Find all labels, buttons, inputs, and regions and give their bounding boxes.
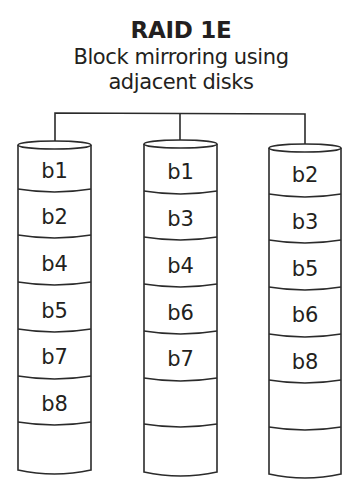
disk-3: b2 b3 b5 b6 b8 bbox=[269, 144, 341, 478]
block-label: b3 bbox=[292, 210, 319, 234]
raid-diagram: b1 b2 b4 b5 b7 b8 b1 b3 b4 b6 b7 b2 b bbox=[0, 0, 362, 495]
block-label: b7 bbox=[41, 345, 68, 369]
disk-cylinder-top bbox=[269, 144, 341, 152]
block-label: b1 bbox=[41, 159, 68, 183]
block-label: b4 bbox=[167, 254, 194, 278]
disk-2: b1 b3 b4 b6 b7 bbox=[144, 140, 217, 476]
block-label: b2 bbox=[292, 163, 319, 187]
disk-1: b1 b2 b4 b5 b7 b8 bbox=[18, 141, 91, 474]
block-label: b8 bbox=[292, 350, 319, 374]
block-label: b8 bbox=[41, 392, 68, 416]
block-label: b2 bbox=[41, 205, 68, 229]
block-label: b6 bbox=[292, 303, 319, 327]
block-label: b6 bbox=[167, 301, 194, 325]
block-label: b4 bbox=[41, 252, 68, 276]
block-label: b1 bbox=[167, 160, 194, 184]
disk-cylinder-top bbox=[18, 141, 91, 149]
block-label: b5 bbox=[41, 299, 68, 323]
disk-cylinder-top bbox=[144, 140, 217, 148]
block-label: b3 bbox=[167, 207, 194, 231]
block-label: b5 bbox=[292, 257, 319, 281]
block-label: b7 bbox=[167, 347, 194, 371]
